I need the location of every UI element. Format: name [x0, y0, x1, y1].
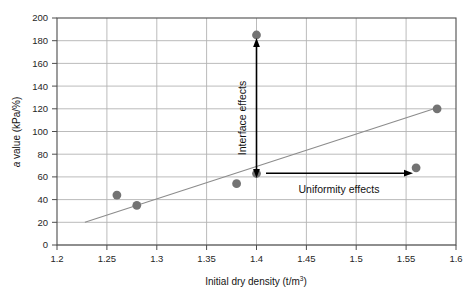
- chart-figure: 0 20 40 60 80 100 120 140 160 180 200 1.…: [0, 0, 476, 298]
- x-axis-title: Initial dry density (t/m3): [205, 275, 306, 287]
- x-axis-title-base: Initial dry density (t/m: [205, 276, 299, 287]
- ytick-label-120: 120: [32, 103, 48, 114]
- y-axis-title: a value (kPa/%): [11, 97, 22, 168]
- x-tick-labels: 1.2 1.25 1.3 1.35 1.4 1.45 1.5 1.55 1.6: [50, 253, 462, 264]
- y-axis-ticks: [52, 18, 57, 245]
- ytick-label-40: 40: [37, 194, 48, 205]
- ytick-label-0: 0: [43, 239, 48, 250]
- xtick-label-1.6: 1.6: [449, 253, 462, 264]
- y-tick-labels: 0 20 40 60 80 100 120 140 160 180 200: [32, 12, 48, 250]
- data-point: [412, 163, 421, 172]
- interface-effects-label: Interface effects: [236, 81, 248, 156]
- ytick-label-100: 100: [32, 126, 48, 137]
- data-point: [132, 201, 141, 210]
- x-axis-ticks: [57, 245, 456, 250]
- ytick-label-160: 160: [32, 58, 48, 69]
- ytick-label-140: 140: [32, 81, 48, 92]
- uniformity-effects-label: Uniformity effects: [299, 183, 380, 195]
- data-point: [113, 191, 122, 200]
- xtick-label-1.25: 1.25: [98, 253, 117, 264]
- data-point: [433, 104, 442, 113]
- y-axis-title-rest: value (kPa/%): [11, 97, 22, 162]
- ytick-label-180: 180: [32, 35, 48, 46]
- ytick-label-60: 60: [37, 171, 48, 182]
- ytick-label-80: 80: [37, 149, 48, 160]
- xtick-label-1.2: 1.2: [50, 253, 63, 264]
- xtick-label-1.4: 1.4: [250, 253, 263, 264]
- xtick-label-1.5: 1.5: [350, 253, 363, 264]
- xtick-label-1.55: 1.55: [397, 253, 416, 264]
- scatter-chart: 0 20 40 60 80 100 120 140 160 180 200 1.…: [0, 0, 476, 298]
- data-point: [232, 179, 241, 188]
- xtick-label-1.3: 1.3: [150, 253, 163, 264]
- xtick-label-1.35: 1.35: [197, 253, 216, 264]
- x-axis-title-tail: ): [303, 276, 306, 287]
- xtick-label-1.45: 1.45: [297, 253, 316, 264]
- ytick-label-20: 20: [37, 217, 48, 228]
- ytick-label-200: 200: [32, 12, 48, 23]
